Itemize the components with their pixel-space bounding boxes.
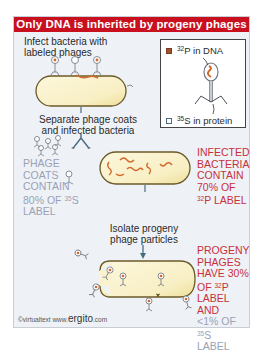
progeny-line4: OF 32P <box>197 280 250 294</box>
coats-tail: S <box>72 194 79 206</box>
legend-item-dna: 32P in DNA <box>166 45 223 56</box>
progeny-line1: PROGENY <box>197 245 250 257</box>
progeny-line5: LABEL AND <box>197 293 250 316</box>
progeny-line3: HAVE 30% <box>197 268 250 280</box>
legend-item-protein: 35S in protein <box>166 115 232 126</box>
legend-protein-rest: S in protein <box>184 115 232 126</box>
infected-line3: CONTAIN <box>197 170 250 182</box>
step3-line1: Isolate progeny <box>99 223 189 234</box>
footer-domain: .com <box>93 316 107 323</box>
progeny-grey-tail: S <box>204 329 211 341</box>
coats-line5: LABEL <box>23 206 79 218</box>
progeny-tail: P <box>222 281 229 293</box>
progeny-phages-result: PROGENY PHAGES HAVE 30% OF 32P LABEL AND… <box>197 245 250 353</box>
footer-credit: ©virtualtext www.ergito.com <box>18 313 107 324</box>
legend-box: 32P in DNA 35S in protein <box>160 39 246 128</box>
figure-panel: Only DNA is inherited by progeny phages … <box>13 16 250 328</box>
progeny-grey-text: <1% OF <box>197 315 236 327</box>
coats-line3: CONTAIN <box>23 181 79 193</box>
infected-line4: 70% OF <box>197 182 250 194</box>
infected-line5: 32P LABEL <box>197 193 250 207</box>
progeny-line7: LABEL <box>197 341 250 353</box>
step2-line1: Separate phage coats <box>34 114 142 125</box>
coats-sup: 35 <box>64 195 71 202</box>
progeny-sup: 32 <box>215 282 222 289</box>
footer-copyright: ©virtualtext www. <box>18 316 68 323</box>
phage-coats-result: PHAGE COATS CONTAIN 80% OF 35S LABEL <box>23 158 79 218</box>
step2-line2: and infected bacteria <box>34 125 142 136</box>
legend-protein-text: 35S in protein <box>177 115 232 126</box>
step3-line2: phage particles <box>99 234 189 245</box>
coats-line1: PHAGE <box>23 158 79 170</box>
labeled-phage-icon <box>189 56 239 116</box>
legend-dna-text: 32P in DNA <box>177 45 223 56</box>
coats-line4: 80% OF 35S <box>23 193 79 207</box>
footer-brand: ergito <box>68 313 93 324</box>
infected-bacteria-result: INFECTED BACTERIA CONTAIN 70% OF 32P LAB… <box>197 147 250 207</box>
coats-line4-text: 80% OF <box>23 194 64 206</box>
dna-swatch-icon <box>166 48 172 54</box>
infected-tail: P LABEL <box>204 194 246 206</box>
infected-line1: INFECTED <box>197 147 250 159</box>
legend-dna-rest: P in DNA <box>184 45 223 56</box>
progeny-line4-text: OF <box>197 281 215 293</box>
step2-label: Separate phage coats and infected bacter… <box>34 114 142 136</box>
progeny-line6: <1% OF 35S <box>197 316 250 341</box>
step3-label: Isolate progeny phage particles <box>99 223 189 245</box>
protein-swatch-icon <box>166 118 172 124</box>
